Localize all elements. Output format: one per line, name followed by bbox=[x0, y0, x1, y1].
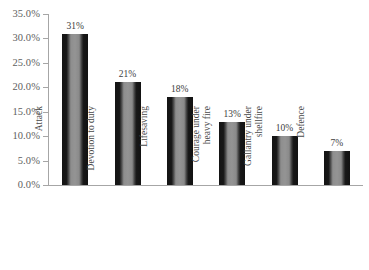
bar-value-label: 18% bbox=[171, 84, 188, 94]
bar bbox=[272, 136, 298, 185]
bar-group: 31% bbox=[62, 14, 88, 185]
x-axis-category-label: Defence bbox=[296, 106, 324, 188]
x-axis-category-label: Gallantry undershellfire bbox=[243, 106, 271, 188]
y-axis-tick-label: 25.0% bbox=[0, 58, 40, 68]
x-axis-label-slot: Devotion to duty bbox=[101, 188, 153, 270]
x-axis-label-slot: Lifesaving bbox=[154, 188, 206, 270]
x-axis-label-slot: Courage underheavy fire bbox=[206, 188, 258, 270]
y-axis-tick-label: 35.0% bbox=[0, 9, 40, 19]
y-axis-tick-mark bbox=[43, 38, 48, 39]
x-axis-category-label: Attack bbox=[34, 106, 62, 188]
x-axis-category-label-line: heavy fire bbox=[202, 106, 213, 144]
bar bbox=[219, 122, 245, 186]
y-axis-tick-label: 20.0% bbox=[0, 82, 40, 92]
bar bbox=[62, 34, 88, 185]
x-axis-category-labels: AttackDevotion to dutyLifesavingCourage … bbox=[49, 188, 363, 270]
bar-group: 13% bbox=[219, 14, 245, 185]
x-axis-label-slot: Gallantry undershellfire bbox=[258, 188, 310, 270]
x-axis-category-label-line: shellfire bbox=[254, 106, 265, 137]
x-axis-category-label-line: Defence bbox=[296, 106, 307, 138]
x-axis-category-label: Lifesaving bbox=[139, 106, 167, 188]
bar-value-label: 7% bbox=[330, 138, 343, 148]
bar-value-label: 31% bbox=[66, 21, 83, 31]
x-axis-label-slot: Attack bbox=[49, 188, 101, 270]
bar-value-label: 13% bbox=[223, 109, 240, 119]
y-axis-tick-label: 30.0% bbox=[0, 33, 40, 43]
bar-group: 21% bbox=[115, 14, 141, 185]
bar-group: 18% bbox=[167, 14, 193, 185]
y-axis-tick-mark bbox=[43, 14, 48, 15]
x-axis-category-label-line: Lifesaving bbox=[139, 106, 150, 147]
bar bbox=[115, 82, 141, 185]
x-axis-category-label-line: Devotion to duty bbox=[86, 106, 97, 170]
bar bbox=[167, 97, 193, 185]
x-axis-category-label-line: Courage under bbox=[191, 106, 202, 162]
x-axis-category-label-line: Gallantry under bbox=[243, 106, 254, 166]
x-axis-category-label: Devotion to duty bbox=[86, 106, 114, 188]
bar-value-label: 21% bbox=[119, 69, 136, 79]
x-axis-category-label-line: Attack bbox=[34, 106, 45, 131]
x-axis-category-label: Courage underheavy fire bbox=[191, 106, 219, 188]
bar-chart: 35.0%30.0%25.0%20.0%15.0%10.0%5.0%0.0% 3… bbox=[0, 0, 369, 270]
y-axis-tick-mark bbox=[43, 63, 48, 64]
bar bbox=[324, 151, 350, 185]
bar-value-label: 10% bbox=[276, 123, 293, 133]
bar-group: 7% bbox=[324, 14, 350, 185]
y-axis-tick-mark bbox=[43, 87, 48, 88]
bar-group: 10% bbox=[272, 14, 298, 185]
x-axis-label-slot: Defence bbox=[311, 188, 363, 270]
